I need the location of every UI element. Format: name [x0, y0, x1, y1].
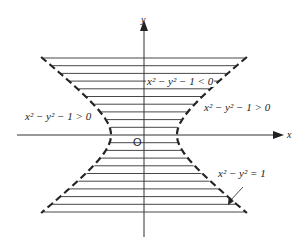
- origin-label: O: [133, 137, 142, 148]
- curve-pointer-arrow: [228, 187, 243, 205]
- left-region-label: x² − y² − 1 > 0: [25, 111, 91, 122]
- inner-region-label: x² − y² − 1 < 0: [146, 76, 214, 87]
- diagram-canvas: [0, 0, 299, 251]
- right-region-label: x² − y² − 1 > 0: [204, 102, 270, 113]
- y-axis-label: y: [141, 15, 145, 25]
- x-axis: [17, 131, 284, 139]
- curve-equation-label: x² − y² = 1: [218, 168, 266, 179]
- hyperbola-diagram: y x O x² − y² − 1 > 0 x² − y² − 1 > 0 x²…: [0, 0, 299, 251]
- x-axis-arrow-icon: [273, 131, 284, 139]
- x-axis-label: x: [287, 130, 291, 140]
